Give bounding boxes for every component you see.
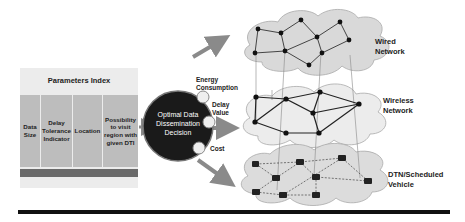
param-location: Location bbox=[73, 95, 102, 167]
dtn-vehicle-label: DTN/Scheduled Vehicle bbox=[388, 170, 458, 190]
parameters-index-panel: Parameters Index Data Size Delay Toleran… bbox=[20, 68, 138, 188]
wired-network-cloud bbox=[245, 9, 389, 75]
wireless-network-label: Wireless Network bbox=[383, 96, 433, 116]
param-data-size: Data Size bbox=[20, 95, 40, 167]
wired-network-label: Wired Network bbox=[375, 37, 425, 57]
param-delay-tolerance: Delay Tolerance Indicator bbox=[41, 95, 72, 167]
param-possibility: Possibility to visit region with given D… bbox=[103, 95, 138, 167]
decision-label: Optimal Data Dissemination Decision bbox=[150, 110, 206, 137]
output-cost: Cost bbox=[210, 145, 224, 153]
parameters-index-bar bbox=[20, 169, 138, 177]
output-delay-value: Delay Value bbox=[212, 101, 238, 117]
parameters-index-title: Parameters Index bbox=[20, 68, 138, 94]
output-energy-consumption: Energy Consumption bbox=[196, 76, 246, 92]
footer-divider bbox=[18, 210, 450, 214]
